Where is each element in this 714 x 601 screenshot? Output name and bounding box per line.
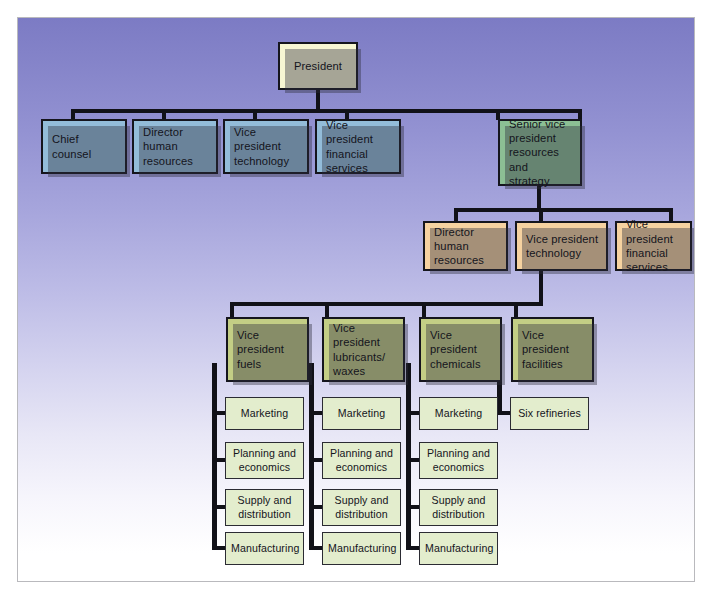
node-facilities-six-refineries[interactable]: Six refineries bbox=[510, 397, 589, 430]
connector-stub-fuels-manufacturing bbox=[212, 546, 226, 550]
node-fuels-marketing[interactable]: Marketing bbox=[225, 397, 304, 430]
node-vp-facilities[interactable]: Vice president facilities bbox=[511, 317, 594, 382]
node-res-director-human-resources-label: Director human resources bbox=[434, 225, 500, 268]
org-chart-canvas: President Chief counsel Director human r… bbox=[17, 17, 695, 582]
node-facilities-six-refineries-label: Six refineries bbox=[516, 407, 583, 421]
node-lubricants-manufacturing-label: Manufacturing bbox=[328, 542, 395, 556]
node-res-vice-president-financial-services-label: Vice president financial services bbox=[626, 217, 684, 274]
node-fuels-planning-economics[interactable]: Planning and economics bbox=[225, 442, 304, 479]
node-chemicals-supply-distribution[interactable]: Supply and distribution bbox=[419, 489, 498, 526]
node-res-vice-president-technology-label: Vice president technology bbox=[526, 232, 600, 261]
node-lubricants-marketing[interactable]: Marketing bbox=[322, 397, 401, 430]
connector-stub-chemicals-planning bbox=[406, 458, 420, 462]
connector-business-unit-bus bbox=[230, 302, 543, 306]
connector-resources-bus bbox=[454, 208, 673, 212]
connector-stub-lubricants-marketing bbox=[309, 411, 323, 415]
connector-stub-lubricants-planning bbox=[309, 458, 323, 462]
node-chemicals-marketing[interactable]: Marketing bbox=[419, 397, 498, 430]
connector-drop-res-director-hr bbox=[454, 208, 458, 222]
node-president[interactable]: President bbox=[278, 42, 358, 90]
node-res-vice-president-financial-services[interactable]: Vice president financial services bbox=[615, 221, 692, 271]
connector-stub-fuels-planning bbox=[212, 458, 226, 462]
connector-drop-bu-lubricants bbox=[325, 302, 329, 318]
connector-stub-chemicals-manufacturing bbox=[406, 546, 420, 550]
connector-top-bus bbox=[71, 109, 582, 113]
node-chemicals-supply-distribution-label: Supply and distribution bbox=[425, 494, 492, 521]
connector-stub-chemicals-marketing bbox=[406, 411, 420, 415]
node-vice-president-technology-label: Vice president technology bbox=[234, 125, 301, 168]
connector-trunk-fuels bbox=[212, 363, 217, 550]
node-lubricants-supply-distribution[interactable]: Supply and distribution bbox=[322, 489, 401, 526]
node-vp-facilities-label: Vice president facilities bbox=[522, 328, 586, 371]
node-chemicals-manufacturing[interactable]: Manufacturing bbox=[419, 532, 498, 565]
node-chemicals-planning-economics-label: Planning and economics bbox=[425, 447, 492, 474]
node-lubricants-planning-economics[interactable]: Planning and economics bbox=[322, 442, 401, 479]
connector-drop-bu-chemicals bbox=[422, 302, 426, 318]
connector-trunk-chemicals bbox=[406, 363, 411, 550]
node-chemicals-marketing-label: Marketing bbox=[425, 407, 492, 421]
node-vp-chemicals[interactable]: Vice president chemicals bbox=[419, 317, 502, 382]
node-res-vice-president-technology[interactable]: Vice president technology bbox=[515, 221, 608, 271]
node-vice-president-technology[interactable]: Vice president technology bbox=[223, 119, 309, 174]
node-vp-lubricants-waxes-label: Vice president lubricants/ waxes bbox=[333, 321, 397, 378]
node-chief-counsel-label: Chief counsel bbox=[52, 132, 119, 161]
node-vp-chemicals-label: Vice president chemicals bbox=[430, 328, 494, 371]
node-director-human-resources-label: Director human resources bbox=[143, 125, 210, 168]
node-fuels-manufacturing[interactable]: Manufacturing bbox=[225, 532, 304, 565]
connector-drop-res-vp-technology bbox=[539, 208, 543, 222]
node-vp-lubricants-waxes[interactable]: Vice president lubricants/ waxes bbox=[322, 317, 405, 382]
connector-trunk-lubricants bbox=[309, 363, 314, 550]
connector-drop-bu-fuels bbox=[230, 302, 234, 318]
node-fuels-marketing-label: Marketing bbox=[231, 407, 298, 421]
node-vp-fuels[interactable]: Vice president fuels bbox=[226, 317, 309, 382]
node-chemicals-manufacturing-label: Manufacturing bbox=[425, 542, 492, 556]
connector-stub-fuels-marketing bbox=[212, 411, 226, 415]
connector-drop-bu-facilities bbox=[514, 302, 518, 318]
node-fuels-supply-distribution[interactable]: Supply and distribution bbox=[225, 489, 304, 526]
connector-stub-facilities-refineries bbox=[497, 411, 511, 415]
node-fuels-planning-economics-label: Planning and economics bbox=[231, 447, 298, 474]
node-chief-counsel[interactable]: Chief counsel bbox=[41, 119, 127, 174]
connector-stub-lubricants-supply bbox=[309, 505, 323, 509]
node-president-label: President bbox=[285, 59, 351, 73]
node-lubricants-supply-distribution-label: Supply and distribution bbox=[328, 494, 395, 521]
node-vice-president-financial-services[interactable]: Vice president financial services bbox=[315, 119, 401, 174]
connector-stub-fuels-supply bbox=[212, 505, 226, 509]
node-fuels-manufacturing-label: Manufacturing bbox=[231, 542, 298, 556]
node-director-human-resources[interactable]: Director human resources bbox=[132, 119, 218, 174]
node-senior-vice-president-label: Senior vice president resources and stra… bbox=[509, 117, 574, 189]
node-lubricants-planning-economics-label: Planning and economics bbox=[328, 447, 395, 474]
node-fuels-supply-distribution-label: Supply and distribution bbox=[231, 494, 298, 521]
connector-vp-technology-stem bbox=[539, 270, 543, 304]
node-chemicals-planning-economics[interactable]: Planning and economics bbox=[419, 442, 498, 479]
node-senior-vice-president[interactable]: Senior vice president resources and stra… bbox=[498, 119, 582, 186]
node-vp-fuels-label: Vice president fuels bbox=[237, 328, 301, 371]
node-vice-president-financial-services-label: Vice president financial services bbox=[326, 118, 393, 175]
connector-stub-chemicals-supply bbox=[406, 505, 420, 509]
connector-stub-lubricants-manufacturing bbox=[309, 546, 323, 550]
node-lubricants-manufacturing[interactable]: Manufacturing bbox=[322, 532, 401, 565]
node-res-director-human-resources[interactable]: Director human resources bbox=[423, 221, 508, 271]
node-lubricants-marketing-label: Marketing bbox=[328, 407, 395, 421]
